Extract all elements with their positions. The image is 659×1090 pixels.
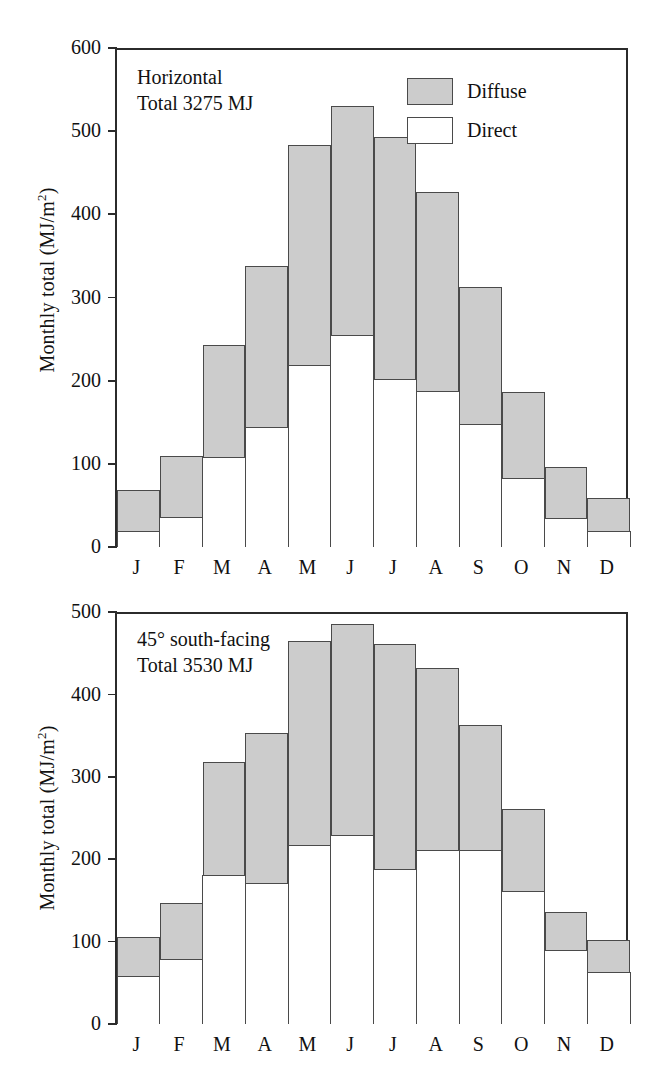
y-tick-label-0: 0 (91, 536, 101, 556)
legend-item-direct: Direct (407, 117, 527, 144)
solar-radiation-figure: Monthly total (MJ/m2) 010020030040050060… (0, 0, 659, 1090)
y-tick-label-400: 400 (71, 683, 101, 703)
bar-horizontal-4 (288, 145, 331, 545)
y-tick-200: 200 (108, 858, 117, 860)
bar-tilted-45-south-5 (331, 624, 374, 1022)
x-axis-label-horizontal-4: M (298, 556, 316, 579)
legend-item-diffuse: Diffuse (407, 78, 527, 105)
bar-segment-direct-1 (159, 959, 203, 1023)
y-tick-label-100: 100 (71, 930, 101, 950)
bar-tilted-45-south-2 (203, 762, 246, 1022)
bar-horizontal-2 (203, 345, 246, 545)
legend-label-direct: Direct (467, 119, 517, 142)
x-axis-label-tilted-45-south-9: O (514, 1033, 528, 1056)
y-axis-label-exponent-bottom: 2 (34, 732, 49, 739)
bar-segment-direct-2 (202, 457, 246, 547)
x-axis-label-horizontal-6: J (389, 556, 397, 579)
y-tick-600: 600 (108, 47, 117, 49)
bar-segment-direct-1 (159, 517, 203, 546)
y-tick-300: 300 (108, 297, 117, 299)
bar-tilted-45-south-11 (587, 940, 630, 1022)
bar-horizontal-3 (245, 266, 288, 545)
y-axis-label-text-top: Monthly total (MJ/m (36, 201, 58, 373)
y-tick-label-200: 200 (71, 369, 101, 389)
y-tick-label-300: 300 (71, 286, 101, 306)
bar-segment-direct-4 (288, 845, 332, 1024)
bar-segment-direct-10 (544, 518, 588, 546)
bar-segment-direct-6 (373, 869, 417, 1024)
chart-annotation-horizontal: Horizontal Total 3275 MJ (137, 64, 253, 117)
y-tick-400: 400 (108, 213, 117, 215)
y-tick-400: 400 (108, 694, 117, 696)
bar-segment-direct-5 (330, 835, 374, 1024)
y-tick-label-300: 300 (71, 765, 101, 785)
bar-tilted-45-south-7 (416, 668, 459, 1022)
y-axis-label-bottom: Monthly total (MJ/m2) (34, 668, 59, 968)
bar-segment-direct-6 (373, 379, 417, 546)
y-tick-label-500: 500 (71, 601, 101, 621)
x-axis-label-tilted-45-south-8: S (473, 1033, 484, 1056)
y-tick-label-0: 0 (91, 1013, 101, 1033)
bar-tilted-45-south-1 (160, 903, 203, 1022)
y-axis-label-exponent-top: 2 (34, 194, 49, 201)
x-axis-label-tilted-45-south-0: J (132, 1033, 140, 1056)
bar-group-horizontal (117, 48, 628, 545)
plot-area-tilted: 0100200300400500 45° south-facing Total … (115, 612, 628, 1024)
plot-area-horizontal: 0100200300400500600 Horizontal Total 327… (115, 48, 628, 547)
bar-tilted-45-south-3 (245, 733, 288, 1022)
bar-segment-direct-8 (459, 850, 503, 1023)
bar-horizontal-6 (374, 137, 417, 545)
x-axis-label-tilted-45-south-11: D (599, 1033, 613, 1056)
y-axis-label-text-bottom: Monthly total (MJ/m (36, 739, 58, 911)
legend-label-diffuse: Diffuse (467, 80, 527, 103)
bar-segment-direct-2 (202, 875, 246, 1023)
bar-segment-direct-9 (501, 478, 545, 546)
bar-segment-direct-11 (587, 531, 631, 547)
y-tick-500: 500 (108, 130, 117, 132)
y-tick-label-100: 100 (71, 453, 101, 473)
bar-tilted-45-south-9 (502, 809, 545, 1022)
bar-horizontal-9 (502, 392, 545, 545)
bar-tilted-45-south-6 (374, 644, 417, 1022)
bar-segment-direct-8 (459, 424, 503, 546)
x-axis-label-tilted-45-south-1: F (174, 1033, 185, 1056)
chart-panel-horizontal: Monthly total (MJ/m2) 010020030040050060… (0, 0, 659, 578)
bar-segment-direct-0 (117, 531, 161, 547)
y-tick-label-200: 200 (71, 848, 101, 868)
bar-segment-direct-9 (501, 891, 545, 1024)
bar-segment-direct-5 (330, 335, 374, 546)
x-axis-label-horizontal-1: F (174, 556, 185, 579)
x-axis-label-tilted-45-south-10: N (557, 1033, 571, 1056)
y-tick-100: 100 (108, 463, 117, 465)
y-tick-label-600: 600 (71, 37, 101, 57)
x-axis-label-horizontal-8: S (473, 556, 484, 579)
y-tick-500: 500 (108, 611, 117, 613)
x-axis-label-horizontal-9: O (514, 556, 528, 579)
y-tick-label-500: 500 (71, 120, 101, 140)
y-axis-label-top: Monthly total (MJ/m2) (34, 130, 59, 430)
legend: Diffuse Direct (407, 78, 527, 156)
x-axis-label-horizontal-2: M (213, 556, 231, 579)
x-axis-label-horizontal-7: A (428, 556, 442, 579)
chart-panel-tilted: Monthly total (MJ/m2) 0100200300400500 4… (0, 578, 659, 1090)
x-axis-label-horizontal-10: N (557, 556, 571, 579)
chart-title-tilted: 45° south-facing (137, 626, 270, 652)
y-tick-300: 300 (108, 776, 117, 778)
chart-annotation-tilted: 45° south-facing Total 3530 MJ (137, 626, 270, 679)
bar-segment-direct-7 (416, 850, 460, 1024)
bar-segment-direct-10 (544, 950, 588, 1023)
x-axis-label-horizontal-3: A (257, 556, 271, 579)
y-tick-label-400: 400 (71, 203, 101, 223)
y-axis-label-paren-top: ) (36, 187, 58, 194)
x-axis-label-tilted-45-south-3: A (257, 1033, 271, 1056)
bar-segment-direct-11 (587, 972, 631, 1023)
bar-horizontal-10 (545, 467, 588, 545)
chart-subtitle-horizontal: Total 3275 MJ (137, 90, 253, 116)
x-axis-label-tilted-45-south-7: A (428, 1033, 442, 1056)
x-axis-label-horizontal-11: D (599, 556, 613, 579)
x-axis-label-horizontal-5: J (346, 556, 354, 579)
y-tick-200: 200 (108, 380, 117, 382)
bar-horizontal-5 (331, 106, 374, 545)
chart-title-horizontal: Horizontal (137, 64, 253, 90)
bar-segment-direct-0 (117, 976, 161, 1024)
